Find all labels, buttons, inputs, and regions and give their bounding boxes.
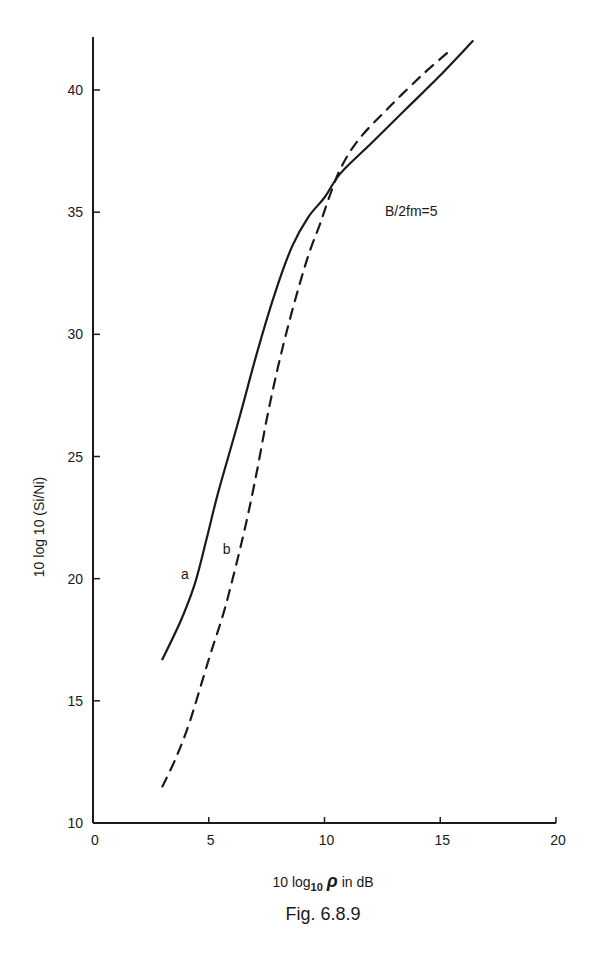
y-tick-label: 25 [67,449,83,465]
y-tick-label: 40 [67,82,83,98]
y-tick-label: 30 [67,326,83,342]
y-ticks: 10152025303540 [67,82,100,831]
series-labels: ab [181,541,231,581]
series-b-label: b [223,541,231,557]
x-tick-label: 5 [207,832,215,848]
y-tick-label: 20 [67,571,83,587]
x-tick-label: 20 [550,832,566,848]
figure-caption: Fig. 6.8.9 [285,904,360,924]
x-tick-label: 10 [319,832,335,848]
y-tick-label: 10 [67,815,83,831]
axes: 05101520 10152025303540 [67,37,566,848]
x-ticks: 05101520 [91,817,566,848]
y-axis-label: 10 log 10 (Si/Ni) [31,477,47,577]
series-b-line [162,51,449,787]
y-tick-label: 35 [67,204,83,220]
series-a-line [162,41,472,659]
y-tick-label: 15 [67,693,83,709]
series-a-label: a [181,566,189,582]
x-axis-label: 10 log10ρ in dB [272,871,373,893]
x-tick-label: 15 [434,832,450,848]
plot-area [162,41,472,786]
parameter-annotation: B/2fm=5 [385,203,438,219]
chart-canvas: 05101520 10152025303540 10 log 10 (Si/Ni… [0,0,605,964]
x-tick-label: 0 [91,832,99,848]
